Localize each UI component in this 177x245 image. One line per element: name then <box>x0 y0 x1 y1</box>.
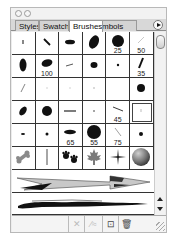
brush-cell[interactable]: 45 <box>106 101 130 124</box>
brush-dot-small-icon <box>138 131 144 137</box>
brush-round-xlarge-icon <box>86 124 102 140</box>
brush-light-diagonal-icon <box>114 127 122 137</box>
stick-icon <box>44 148 50 166</box>
brush-cell-selected[interactable] <box>130 101 154 124</box>
brush-cell[interactable] <box>106 78 130 101</box>
brush-size-label: 35 <box>130 70 153 77</box>
brush-dash-small-icon <box>20 132 26 136</box>
brush-oval-medium-icon <box>40 58 54 68</box>
brush-cell[interactable] <box>59 55 83 78</box>
brush-cell[interactable] <box>12 101 36 124</box>
brush-size-label: 100 <box>36 70 59 77</box>
brush-size-label: 50 <box>130 47 153 54</box>
brush-cell[interactable] <box>12 78 36 101</box>
brush-round-large-icon <box>41 105 53 117</box>
minimize-button[interactable] <box>24 10 31 17</box>
brush-cell[interactable]: 100 <box>36 55 60 78</box>
brush-cell[interactable] <box>83 101 107 124</box>
brush-cell[interactable]: 75 <box>106 124 130 147</box>
brush-light-slash-icon <box>19 83 27 93</box>
brush-horizontal-line-icon <box>63 109 77 113</box>
sphere-icon <box>131 147 151 167</box>
brush-cell[interactable] <box>130 78 154 101</box>
remove-brush-stroke-button[interactable]: ✕ <box>68 216 84 232</box>
tab-styles[interactable]: Styles <box>15 20 39 31</box>
brush-cell[interactable] <box>106 147 130 170</box>
brush-size-label: 65 <box>59 139 82 146</box>
brush-cell[interactable]: 50 <box>130 32 154 55</box>
arrow-stroke-icon <box>12 170 154 193</box>
brush-cell[interactable] <box>59 78 83 101</box>
brush-grid: 25 50 100 35 45 65 <box>12 32 154 170</box>
brush-size-label: 45 <box>106 116 129 123</box>
brush-cell[interactable] <box>36 32 60 55</box>
tab-bar: Styles Swatches mbols Brushes <box>11 19 166 31</box>
brush-cell[interactable] <box>12 124 36 147</box>
panel-titlebar[interactable] <box>11 8 166 19</box>
brush-cell[interactable] <box>12 32 36 55</box>
brush-flat-oval-icon <box>64 38 76 46</box>
brush-size-label: 75 <box>106 139 129 146</box>
brush-cell[interactable] <box>130 124 154 147</box>
brush-cell[interactable] <box>59 101 83 124</box>
tab-brushes[interactable]: Brushes <box>69 20 103 32</box>
scroll-down-arrow-icon[interactable] <box>157 207 163 211</box>
brush-round-small-icon <box>89 60 99 70</box>
brush-short-stroke-icon <box>65 62 75 68</box>
scroll-thumb[interactable] <box>156 35 165 49</box>
brush-dot-tiny-icon <box>20 39 26 45</box>
brush-round-medium-icon <box>136 83 146 93</box>
brush-faint-dot-icon <box>139 108 143 114</box>
resize-grip-icon[interactable] <box>156 222 165 231</box>
brush-cell[interactable] <box>12 55 36 78</box>
brush-cell[interactable]: 65 <box>59 124 83 147</box>
vertical-scrollbar[interactable] <box>154 32 165 215</box>
brush-tilted-oval-large-icon <box>87 34 101 50</box>
close-button[interactable] <box>15 10 22 17</box>
brush-faint-dot-icon <box>45 86 49 90</box>
brush-diagonal-line-icon <box>42 37 52 47</box>
brush-size-label: 55 <box>83 139 106 146</box>
panel-menu-button[interactable] <box>153 20 163 30</box>
brush-slanted-line-icon <box>112 106 124 112</box>
brush-cell[interactable] <box>106 55 130 78</box>
brush-size-label: 25 <box>106 47 129 54</box>
art-brush-arrow[interactable] <box>12 170 154 193</box>
brush-faint-dot-icon <box>68 86 72 90</box>
brush-vertical-oval-icon <box>18 57 28 73</box>
brush-cell[interactable] <box>83 78 107 101</box>
brush-cell[interactable] <box>59 32 83 55</box>
charcoal-stroke-icon <box>12 193 154 215</box>
scroll-up-arrow-icon[interactable] <box>157 197 163 201</box>
brush-cell[interactable] <box>36 78 60 101</box>
tab-symbols-label: mbols <box>102 21 123 31</box>
brush-dot-small-icon <box>116 63 120 67</box>
brush-options-button[interactable]: ⁄≈ <box>84 216 102 232</box>
brush-cell[interactable]: 25 <box>106 32 130 55</box>
tab-symbols[interactable]: mbols <box>99 20 137 31</box>
art-brush-charcoal[interactable] <box>12 193 154 215</box>
tab-swatches[interactable]: Swatches <box>39 20 69 31</box>
brush-cell[interactable] <box>12 147 36 170</box>
brush-cell[interactable]: 55 <box>83 124 107 147</box>
brush-flat-oval-wide-icon <box>63 129 77 135</box>
delete-brush-button[interactable]: 🗑 <box>118 216 134 232</box>
brush-cell[interactable] <box>59 147 83 170</box>
brush-cell[interactable] <box>36 124 60 147</box>
brush-cell[interactable] <box>130 147 154 170</box>
brush-cell[interactable] <box>36 147 60 170</box>
brush-cell[interactable] <box>83 55 107 78</box>
brush-faint-dot-icon <box>92 86 96 90</box>
brush-tilted-oval-icon <box>18 105 28 117</box>
brush-round-large-icon <box>111 34 125 48</box>
sparkle-star-icon <box>109 148 127 166</box>
new-brush-button[interactable]: ⊡ <box>102 216 118 232</box>
brush-cell[interactable] <box>83 147 107 170</box>
brush-library: 25 50 100 35 45 65 <box>12 32 154 215</box>
brush-cell[interactable]: 35 <box>130 55 154 78</box>
brush-cell[interactable] <box>83 32 107 55</box>
brush-thin-line-light-icon <box>136 35 146 45</box>
brush-cell[interactable] <box>36 101 60 124</box>
bone-icon <box>15 149 31 165</box>
bottom-toolbar: ✕ ⁄≈ ⊡ 🗑 <box>12 215 166 232</box>
